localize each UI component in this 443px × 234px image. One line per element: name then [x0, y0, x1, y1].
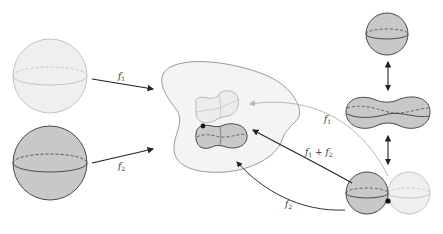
basepoint-dot — [201, 124, 206, 129]
label-f1-right: f1 — [323, 114, 331, 125]
sphere-pair-light — [388, 172, 430, 214]
peanut-right — [346, 97, 430, 128]
sphere-pair-dark — [346, 172, 388, 214]
sphere-pair — [346, 172, 430, 214]
diagram-canvas: f1 f2 f1 f1 + — [0, 0, 443, 234]
surface-space-region — [162, 62, 300, 173]
sphere-light — [13, 39, 87, 113]
sphere-top-right — [366, 13, 408, 55]
label-f1-left: f1 — [117, 71, 125, 82]
wedge-point-dot — [385, 198, 390, 203]
arrow-f2-left — [92, 149, 153, 163]
image-f2-peanut — [196, 124, 247, 149]
sphere-dark — [13, 126, 87, 200]
label-f2-left: f2 — [117, 161, 125, 172]
label-sum: f1 + f2 — [304, 147, 333, 158]
